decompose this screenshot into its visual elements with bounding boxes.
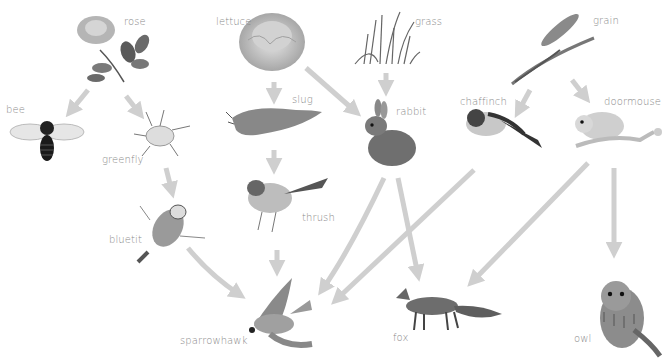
owl-icon <box>600 281 660 356</box>
label-slug: slug <box>292 94 313 105</box>
doormouse-icon <box>575 112 662 146</box>
arrow-rabbit-sparrowhawk <box>322 178 384 290</box>
label-owl: owl <box>574 333 591 344</box>
diagram-canvas <box>0 0 666 359</box>
arrow-rose-bee <box>70 90 88 112</box>
label-rabbit: rabbit <box>396 106 426 117</box>
food-web-diagram: rose lettuce grass grain bee greenfly sl… <box>0 0 666 359</box>
label-chaffinch: chaffinch <box>460 96 507 107</box>
arrow-doormouse-fox <box>472 163 588 282</box>
label-greenfly: greenfly <box>102 154 144 165</box>
fox-icon <box>396 288 502 330</box>
label-lettuce: lettuce <box>216 16 251 27</box>
greenfly-icon <box>134 110 190 156</box>
chaffinch-icon <box>466 109 542 148</box>
arrow-grain-chaffinch <box>518 90 530 112</box>
label-thrush: thrush <box>302 212 335 223</box>
label-doormouse: doormouse <box>604 96 661 107</box>
sparrowhawk-icon <box>249 278 312 345</box>
label-grain: grain <box>593 15 619 26</box>
grain-icon <box>512 10 594 84</box>
grass-icon <box>355 12 420 64</box>
label-fox: fox <box>393 332 409 343</box>
label-grass: grass <box>415 16 442 27</box>
arrows <box>70 68 614 300</box>
arrow-rose-greenfly <box>126 96 140 114</box>
label-sparrowhawk: sparrowhawk <box>180 335 248 346</box>
thrush-icon <box>247 178 328 232</box>
arrow-bluetit-sparrowhawk <box>188 248 240 295</box>
label-bee: bee <box>6 104 25 115</box>
label-rose: rose <box>124 16 146 27</box>
slug-icon <box>226 108 322 135</box>
arrow-lettuce-rabbit <box>306 68 356 112</box>
label-bluetit: bluetit <box>109 234 142 245</box>
arrow-grain-doormouse <box>572 80 586 98</box>
bee-icon <box>10 121 84 161</box>
arrow-greenfly-bluetit <box>166 168 172 192</box>
